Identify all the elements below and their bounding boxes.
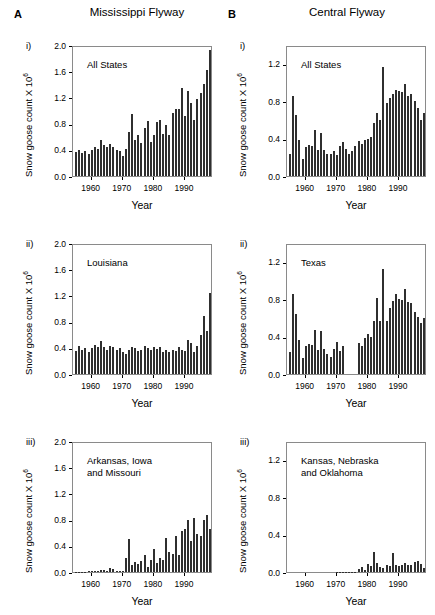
y-tick-label: 1.2 [254,257,280,267]
bar [172,113,174,176]
panel-letter-a: A [14,8,22,20]
y-tick-mark [69,125,72,126]
bar [289,154,291,176]
y-tick-mark [283,177,286,178]
bar [103,145,105,176]
x-tick-label: 1990 [383,381,413,391]
x-tick-mark [367,177,368,180]
bar [336,155,338,176]
bar [407,302,409,374]
bar [407,565,409,572]
y-tick-label: 1.6 [40,265,66,275]
x-axis-label: Year [72,397,212,409]
bar [190,541,192,572]
bar [184,116,186,176]
bar [414,101,416,176]
y-tick-mark [69,98,72,99]
y-axis-label: Snow goose count X 106 [22,469,34,573]
x-axis-label: Year [286,595,426,607]
x-tick-mark [91,177,92,180]
chart-panel-a-iii: iii)Snow goose count X 106Arkansas, Iowa… [0,420,214,610]
bar [172,554,174,572]
bar [131,565,133,572]
bar [181,88,183,176]
bar [187,340,189,374]
bar [168,552,170,572]
y-tick-mark [69,573,72,574]
bar [367,139,369,176]
x-tick-mark [153,177,154,180]
x-tick-mark [398,375,399,378]
y-tick-mark [69,442,72,443]
x-tick-mark [398,177,399,180]
x-tick-label: 1960 [76,381,106,391]
bar [361,144,363,176]
bar [190,103,192,176]
bar [345,149,347,176]
y-tick-label: 0.4 [40,343,66,353]
bar [181,531,183,572]
bar [417,561,419,572]
bar [91,571,93,572]
bar [323,349,325,374]
bar [165,125,167,176]
bar [364,140,366,176]
bar [137,564,139,572]
bar [131,347,133,374]
bar [404,289,406,374]
bar [336,342,338,374]
bar [398,566,400,572]
bar [200,93,202,176]
x-tick-label: 1970 [107,579,137,589]
x-tick-mark [305,177,306,180]
bar [414,562,416,572]
bar [109,144,111,176]
bar [78,150,80,176]
bar [376,563,378,572]
bar [361,346,363,374]
y-axis-label: Snow goose count X 106 [22,271,34,375]
x-tick-mark [398,573,399,576]
bar [125,354,127,374]
x-tick-label: 1990 [383,183,413,193]
bar [144,555,146,572]
y-tick-label: 0.0 [254,568,280,578]
bar [103,570,105,572]
bar [184,351,186,374]
bar [398,299,400,374]
y-tick-mark [69,323,72,324]
bar [398,91,400,176]
y-tick-label: 0.8 [254,97,280,107]
bar [206,70,208,176]
y-tick-label: 1.2 [40,291,66,301]
bar [128,350,130,374]
bar [342,346,344,374]
bar [423,113,425,176]
bar [386,565,388,572]
y-tick-label: 2.0 [40,437,66,447]
bar [389,566,391,572]
bar [320,331,322,374]
bar [311,345,313,374]
x-tick-label: 1990 [169,381,199,391]
bar [150,560,152,572]
y-tick-label: 1.2 [40,489,66,499]
bar [116,150,118,176]
bar [209,529,211,572]
y-tick-label: 0.0 [40,172,66,182]
plot-area: Texas [286,244,426,375]
x-tick-label: 1970 [321,381,351,391]
x-axis-label: Year [72,595,212,607]
bar [392,94,394,176]
bar [94,571,96,572]
bar [116,350,118,374]
x-tick-label: 1960 [76,579,106,589]
bar [305,346,307,374]
bar [168,135,170,176]
bar [298,140,300,176]
bar [106,350,108,374]
y-axis-label: Snow goose count X 106 [236,469,248,573]
x-tick-mark [153,375,154,378]
bar [178,109,180,176]
bar [379,321,381,374]
